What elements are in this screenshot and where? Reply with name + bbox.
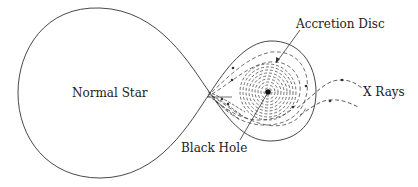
accretion-disc-label: Accretion Disc [296,18,385,30]
black-hole-label: Black Hole [181,142,247,154]
normal-star-label: Normal Star [72,87,148,99]
black-hole-dot [265,89,271,95]
black-hole-lobe [210,41,316,141]
x-rays-label: X Rays [363,86,405,98]
accretion-disc-leader [276,30,300,63]
black-hole-leader [240,94,267,140]
